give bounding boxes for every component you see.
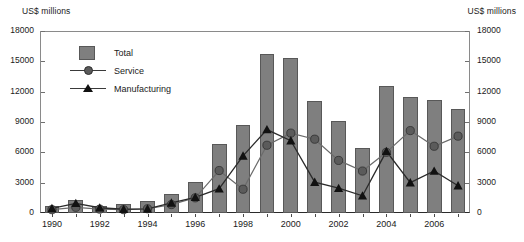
x-tick-label: 2004 (366, 220, 406, 229)
x-tick-mark (124, 214, 125, 217)
x-tick-mark (243, 214, 244, 217)
y-tick-label-right: 6000 (477, 147, 496, 156)
x-tick-mark (434, 214, 435, 217)
chart-figure: US$ millions US$ millions 03000600090001… (0, 0, 524, 242)
bar (307, 101, 322, 213)
x-tick-mark (291, 214, 292, 217)
legend-item-total: Total (66, 46, 196, 60)
bar (451, 109, 466, 213)
x-tick-mark (386, 214, 387, 217)
y-tick-label-left: 6000 (0, 147, 34, 156)
y-tick-mark (465, 92, 469, 93)
circle-marker-icon (84, 66, 93, 75)
x-tick-label: 2006 (414, 220, 454, 229)
y-tick-label-left: 0 (0, 208, 34, 217)
bar (92, 206, 107, 213)
x-tick-label: 1990 (32, 220, 72, 229)
x-tick-label: 1996 (175, 220, 215, 229)
x-tick-mark (267, 214, 268, 217)
x-tick-mark (315, 214, 316, 217)
y-tick-label-right: 15000 (477, 56, 501, 65)
bar-swatch-icon (79, 46, 95, 60)
bar (236, 125, 251, 213)
y-tick-mark (465, 152, 469, 153)
legend-label-service: Service (114, 65, 144, 77)
x-tick-mark (100, 214, 101, 217)
y-tick-mark (41, 122, 45, 123)
x-tick-label: 1994 (128, 220, 168, 229)
x-tick-mark (219, 214, 220, 217)
y-tick-label-right: 9000 (477, 117, 496, 126)
x-tick-mark (458, 214, 459, 217)
y-tick-label-right: 18000 (477, 26, 501, 35)
legend-item-service: Service (66, 64, 196, 78)
y-tick-label-left: 9000 (0, 117, 34, 126)
x-tick-mark (76, 214, 77, 217)
y-tick-mark (41, 61, 45, 62)
x-tick-mark (363, 214, 364, 217)
bar (379, 86, 394, 213)
x-tick-mark (52, 214, 53, 217)
y-tick-mark (41, 152, 45, 153)
y-tick-mark (465, 61, 469, 62)
left-axis-caption: US$ millions (22, 6, 70, 16)
bar (45, 206, 60, 213)
x-tick-mark (195, 214, 196, 217)
x-tick-mark (171, 214, 172, 217)
bar (427, 100, 442, 213)
bar (164, 194, 179, 213)
y-tick-label-left: 12000 (0, 87, 34, 96)
bar (331, 121, 346, 213)
x-tick-label: 2000 (271, 220, 311, 229)
y-tick-mark (41, 183, 45, 184)
x-tick-label: 2002 (319, 220, 359, 229)
legend-label-total: Total (114, 47, 133, 59)
x-tick-mark (410, 214, 411, 217)
bar (283, 58, 298, 213)
y-tick-mark (41, 92, 45, 93)
x-tick-mark (148, 214, 149, 217)
legend-item-manufacturing: Manufacturing (66, 82, 196, 96)
chart-legend: Total Service Manufacturing (66, 46, 196, 96)
y-tick-label-left: 3000 (0, 178, 34, 187)
y-tick-mark (465, 183, 469, 184)
x-tick-mark (339, 214, 340, 217)
bar (140, 201, 155, 213)
x-tick-label: 1998 (223, 220, 263, 229)
y-tick-mark (465, 122, 469, 123)
y-tick-label-left: 18000 (0, 26, 34, 35)
y-tick-label-right: 12000 (477, 87, 501, 96)
bar (188, 182, 203, 213)
y-tick-mark (41, 31, 45, 32)
y-tick-label-right: 3000 (477, 178, 496, 187)
y-tick-label-left: 15000 (0, 56, 34, 65)
right-axis-caption: US$ millions (468, 6, 516, 16)
bar (68, 200, 83, 213)
y-tick-label-right: 0 (477, 208, 482, 217)
bar (212, 144, 227, 213)
legend-label-manufacturing: Manufacturing (114, 83, 171, 95)
bar (355, 148, 370, 213)
bar (403, 97, 418, 213)
triangle-marker-icon (83, 84, 93, 92)
bar (116, 204, 131, 213)
bar (260, 54, 275, 213)
y-tick-mark (465, 31, 469, 32)
x-tick-label: 1992 (80, 220, 120, 229)
